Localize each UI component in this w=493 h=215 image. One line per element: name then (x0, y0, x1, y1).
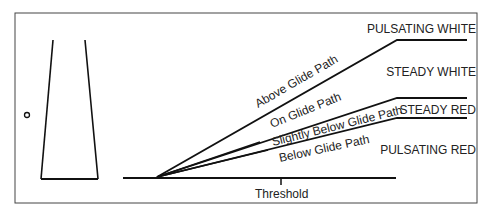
glide-path-diagram: Threshold Above Glide Path On Glide Path… (0, 0, 493, 215)
signal-pulsating-white: PULSATING WHITE (367, 22, 476, 36)
signal-steady-white: STEADY WHITE (386, 65, 476, 79)
threshold-label: Threshold (255, 187, 308, 201)
signal-pulsating-red: PULSATING RED (380, 143, 476, 157)
signal-steady-red: STEADY RED (400, 103, 477, 117)
